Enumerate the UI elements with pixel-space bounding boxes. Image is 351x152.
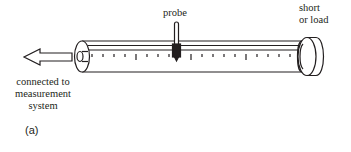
end-label-line1: short	[299, 2, 320, 14]
left-arrow-icon	[24, 49, 72, 65]
probe-icon	[175, 22, 179, 46]
connection-label-line2: measurement	[13, 88, 73, 100]
scale-ticks	[90, 50, 300, 60]
connection-label-line3: system	[13, 100, 73, 112]
panel-label: (a)	[25, 124, 38, 136]
probe-label: probe	[163, 7, 187, 19]
connection-label-line1: connected to	[13, 76, 73, 88]
end-label-line2: or load	[299, 14, 328, 26]
